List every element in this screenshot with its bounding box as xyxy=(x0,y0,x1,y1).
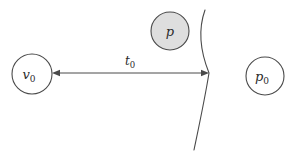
node-p0: p0 xyxy=(246,57,284,95)
node-v0: v0 xyxy=(12,54,52,94)
edge-t0-arrowhead-left xyxy=(52,70,60,76)
edge-t0-arrow xyxy=(52,70,209,76)
boundary-arc xyxy=(194,10,209,150)
node-p-label: p xyxy=(166,24,175,39)
diagram-canvas: t0 v0 p p0 xyxy=(0,0,296,152)
node-p: p xyxy=(151,12,189,50)
edge-t0-label: t0 xyxy=(125,54,135,70)
diagram-svg: t0 v0 p p0 xyxy=(0,0,296,152)
